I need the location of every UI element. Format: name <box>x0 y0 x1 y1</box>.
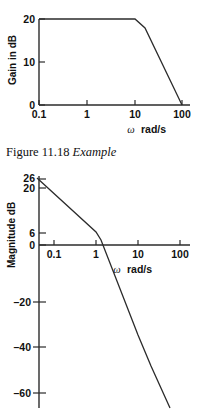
magnitude-x-ticks <box>54 240 180 245</box>
gain-ytick-label-10: 10 <box>23 56 35 68</box>
figure-caption: Figure 11.18 Example <box>6 145 201 165</box>
magnitude-ytick-label-6: 6 <box>29 227 35 239</box>
gain-y-axis-label: Gain in dB <box>7 35 18 85</box>
magnitude-xtick-label-100: 100 <box>171 248 189 260</box>
gain-xtick-label-0p1: 0.1 <box>32 108 47 120</box>
magnitude-ytick-label-neg60: –60 <box>13 387 31 399</box>
magnitude-x-axis-units: rad/s <box>127 263 152 275</box>
magnitude-plot-svg: Magnitude dB 26 20 6 0 –20 –40 –60 0.1 <box>0 168 201 415</box>
gain-x-ticks <box>39 100 182 105</box>
gain-plot-svg: Gain in dB 20 10 0 0.1 1 10 100 ω rad/s <box>0 0 201 140</box>
magnitude-ytick-label-20: 20 <box>23 182 35 194</box>
magnitude-xtick-label-0p1: 0.1 <box>47 248 62 260</box>
magnitude-ytick-label-neg20: –20 <box>13 296 31 308</box>
magnitude-curve <box>37 178 170 408</box>
gain-ytick-label-20: 20 <box>23 13 35 25</box>
figure-caption-title: Example <box>73 145 117 159</box>
gain-xtick-label-10: 10 <box>129 108 141 120</box>
gain-x-axis-symbol: ω <box>127 124 134 135</box>
gain-curve <box>39 19 182 105</box>
magnitude-ytick-label-0: 0 <box>29 239 35 251</box>
gain-plot-figure: Gain in dB 20 10 0 0.1 1 10 100 ω rad/s <box>0 0 201 140</box>
magnitude-plot-figure: Magnitude dB 26 20 6 0 –20 –40 –60 0.1 <box>0 168 201 415</box>
magnitude-xtick-label-10: 10 <box>132 248 144 260</box>
magnitude-ytick-label-neg40: –40 <box>13 341 31 353</box>
gain-y-ticks <box>39 19 45 105</box>
magnitude-y-axis-label: Magnitude dB <box>6 202 17 268</box>
magnitude-xtick-label-1: 1 <box>93 248 99 260</box>
figure-caption-number: Figure 11.18 <box>6 145 69 159</box>
gain-xtick-label-100: 100 <box>173 108 191 120</box>
gain-x-axis-units: rad/s <box>141 123 166 135</box>
gain-xtick-label-1: 1 <box>84 108 90 120</box>
